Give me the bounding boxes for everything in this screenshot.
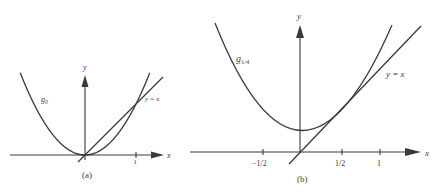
panel-b-x-arrow-icon (405, 148, 421, 156)
panel-a-y-label: y (82, 63, 87, 72)
panel-a-x-label: x (166, 151, 171, 160)
panel-b: y x −1/2 1/2 1 g1/4 y = x (b) (190, 11, 429, 184)
panel-a: y x 1 g0 y = x (a) (10, 63, 171, 180)
panel-b-line-label: y = x (385, 69, 405, 79)
panel-b-tick-label-1: 1 (377, 159, 381, 168)
panel-b-line-y-eq-x (289, 26, 421, 164)
panel-a-caption: (a) (82, 170, 92, 180)
panel-b-tick-label-neg-half: −1/2 (252, 159, 267, 168)
panel-b-tick-label-half: 1/2 (335, 159, 345, 168)
panel-a-y-arrow-icon (82, 75, 89, 87)
panel-b-x-label: x (424, 148, 429, 158)
panel-b-caption: (b) (297, 174, 308, 184)
panel-b-y-arrow-icon (296, 25, 304, 38)
panel-a-line-y-eq-x (78, 77, 163, 162)
panel-a-tick-label-1: 1 (134, 158, 138, 166)
panel-a-line-label: y = x (144, 95, 160, 103)
panel-a-x-arrow-icon (151, 152, 164, 159)
figure: y x 1 g0 y = x (a) y x −1/2 1/2 1 g1/4 y… (0, 0, 439, 194)
panel-b-curve-g1-4 (215, 23, 392, 131)
panel-a-curve-label: g0 (41, 95, 48, 105)
panel-b-y-label: y (296, 11, 301, 21)
panel-b-curve-label: g1/4 (236, 53, 250, 65)
